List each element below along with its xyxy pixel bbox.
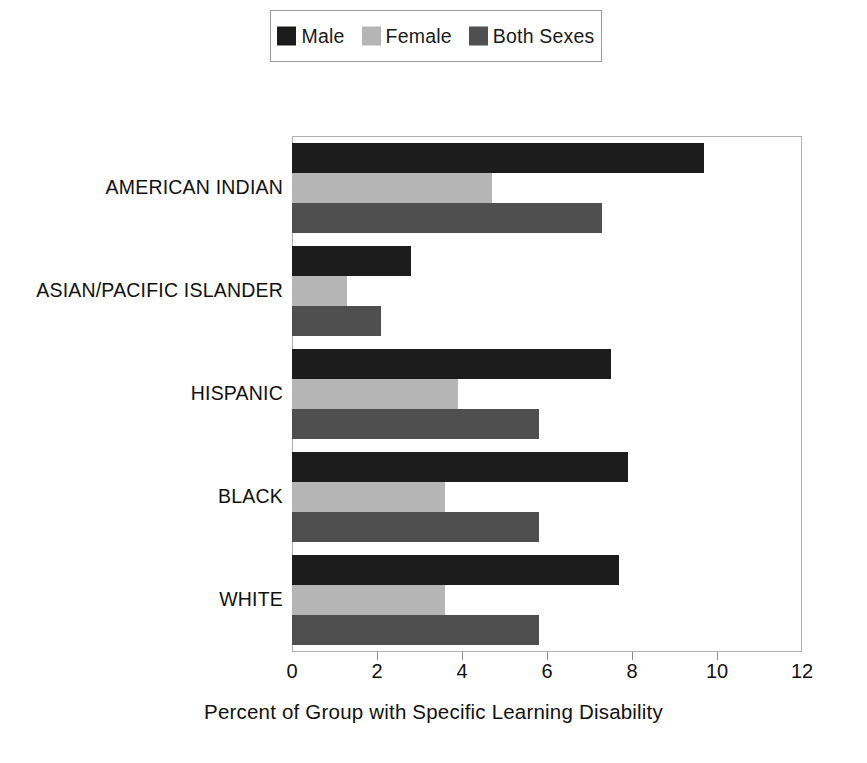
bar-group [292,446,802,549]
plot-area [292,136,802,652]
bar-female [292,173,492,203]
x-axis-tick [717,652,718,660]
x-axis-tick-label: 2 [371,660,382,683]
category-label: ASIAN/PACIFIC ISLANDER [36,279,283,302]
legend-entries: Male Female Both Sexes [271,27,601,46]
x-axis-tick-label: 10 [706,660,728,683]
bar-both-sexes [292,615,539,645]
bar-male [292,555,619,585]
x-axis-tick [547,652,548,660]
x-axis-tick-label: 8 [626,660,637,683]
bar-both-sexes [292,306,381,336]
legend-item-male: Male [277,27,344,46]
bar-female [292,585,445,615]
bar-male [292,349,611,379]
bar-female [292,276,347,306]
x-axis-tick-label: 4 [456,660,467,683]
bar-group [292,549,802,652]
x-axis-tick [632,652,633,660]
chart-legend: Male Female Both Sexes [270,10,602,62]
legend-swatch-male-icon [277,27,296,46]
x-axis-tick-label: 6 [541,660,552,683]
legend-item-both-sexes: Both Sexes [469,27,595,46]
bar-group [292,136,802,239]
legend-label-both-sexes: Both Sexes [493,27,595,46]
category-label: HISPANIC [191,382,283,405]
category-axis-labels: AMERICAN INDIANASIAN/PACIFIC ISLANDERHIS… [0,136,283,652]
bar-male [292,246,411,276]
category-label: AMERICAN INDIAN [106,176,283,199]
bar-female [292,482,445,512]
x-axis-title: Percent of Group with Specific Learning … [0,700,867,724]
x-axis-tick-label: 0 [286,660,297,683]
bar-both-sexes [292,409,539,439]
legend-label-female: Female [386,27,452,46]
bar-both-sexes [292,203,602,233]
bar-male [292,452,628,482]
x-axis-tick-label: 12 [791,660,813,683]
x-axis-tick [462,652,463,660]
bar-group [292,342,802,445]
legend-swatch-both-sexes-icon [469,27,488,46]
legend-item-female: Female [362,27,452,46]
bar-group [292,239,802,342]
x-axis-tick [377,652,378,660]
bar-male [292,143,704,173]
chart-figure: Male Female Both Sexes AMERICAN INDIANAS… [0,0,867,763]
category-label: BLACK [218,485,283,508]
legend-swatch-female-icon [362,27,381,46]
category-label: WHITE [219,588,283,611]
bar-female [292,379,458,409]
bar-both-sexes [292,512,539,542]
legend-label-male: Male [301,27,344,46]
